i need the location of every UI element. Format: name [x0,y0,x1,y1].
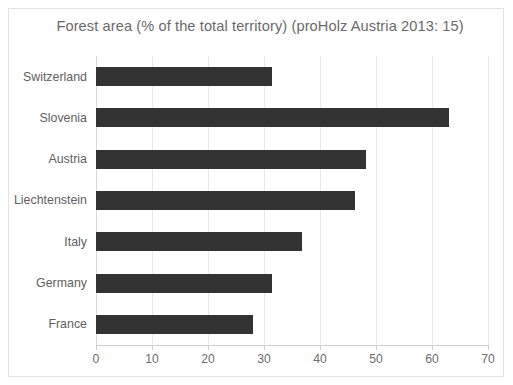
y-axis-label-germany: Germany [0,262,96,303]
x-tick-label-30: 30 [257,352,271,366]
y-axis-label-text: Liechtenstein [14,193,96,207]
y-axis-label-liechtenstein: Liechtenstein [0,180,96,221]
gridline-70 [488,56,489,345]
bar-row [96,304,488,345]
bar-liechtenstein[interactable] [96,191,355,210]
x-tick-label-0: 0 [93,352,100,366]
x-tick-30 [264,345,265,350]
x-tick-10 [152,345,153,350]
x-tick-60 [432,345,433,350]
x-tick-label-40: 40 [313,352,327,366]
y-axis-label-slovenia: Slovenia [0,97,96,138]
x-axis-line [96,345,488,346]
y-axis-label-text: Slovenia [39,111,96,125]
bar-row [96,97,488,138]
bar-slovenia[interactable] [96,108,449,127]
x-tick-label-60: 60 [425,352,439,366]
chart-title: Forest area (% of the total territory) (… [20,18,500,34]
x-tick-50 [376,345,377,350]
bar-italy[interactable] [96,232,302,251]
y-axis-label-switzerland: Switzerland [0,56,96,97]
y-axis-label-text: Germany [36,276,96,290]
x-tick-0 [96,345,97,350]
bar-austria[interactable] [96,150,366,169]
x-tick-20 [208,345,209,350]
y-axis-label-text: Austria [48,152,96,166]
x-tick-label-10: 10 [145,352,159,366]
bar-switzerland[interactable] [96,67,272,86]
chart-figure: Forest area (% of the total territory) (… [0,0,513,385]
x-tick-70 [488,345,489,350]
y-axis-label-text: France [48,317,96,331]
y-axis-label-austria: Austria [0,139,96,180]
x-tick-label-50: 50 [369,352,383,366]
bar-row [96,221,488,262]
bar-row [96,262,488,303]
x-tick-label-20: 20 [201,352,215,366]
x-tick-label-70: 70 [481,352,495,366]
y-axis-label-france: France [0,304,96,345]
bar-france[interactable] [96,315,253,334]
y-axis-label-italy: Italy [0,221,96,262]
y-axis-category-labels: SwitzerlandSloveniaAustriaLiechtensteinI… [0,56,96,345]
bar-germany[interactable] [96,274,272,293]
bar-row [96,180,488,221]
y-axis-label-text: Switzerland [23,70,96,84]
x-tick-40 [320,345,321,350]
bar-series [96,56,488,345]
bar-row [96,139,488,180]
plot-area [96,56,488,345]
bar-row [96,56,488,97]
y-axis-label-text: Italy [64,235,96,249]
